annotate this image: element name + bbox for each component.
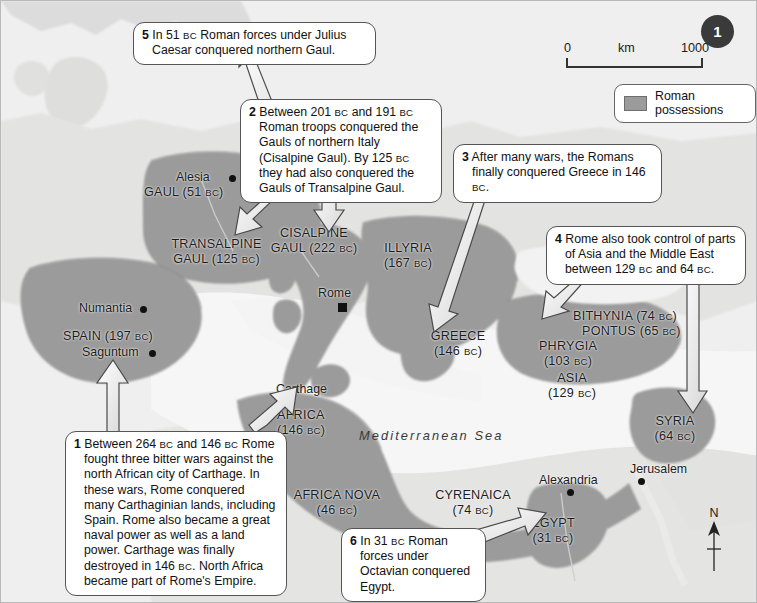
callout-2-text: Between 201 BC and 191 BC Roman troops c…: [259, 105, 418, 195]
region-label-greece-date: (146 BC): [413, 344, 503, 360]
legend: Roman possessions: [614, 84, 756, 123]
region-label-phrygia: PHRYGIA (103 BC): [522, 339, 614, 369]
region-label-spain: SPAIN (197 BC): [63, 329, 153, 345]
mediterranean-sea-label: Mediterranean Sea: [359, 428, 504, 443]
region-label-syria: SYRIA (64 BC): [635, 414, 715, 444]
city-dot-alexandria: [567, 489, 574, 496]
region-label-syria-date: (64 BC): [635, 429, 715, 445]
region-label-asia-name: ASIA: [530, 371, 614, 386]
region-label-syria-name: SYRIA: [635, 414, 715, 429]
city-dot-jerusalem: [638, 478, 645, 485]
region-label-asia: ASIA (129 BC): [530, 371, 614, 401]
callout-4-text: Rome also took control of parts of Asia …: [565, 232, 735, 276]
callout-4[interactable]: 4 Rome also took control of parts of Asi…: [546, 226, 746, 285]
callout-3[interactable]: 3 After many wars, the Romans finally co…: [453, 144, 662, 203]
region-label-cisalpine-line1: CISALPINE: [255, 226, 373, 241]
scale-min-label: 0: [564, 41, 571, 55]
city-square-rome: [338, 303, 347, 312]
legend-label-roman-possessions: Roman possessions: [655, 89, 745, 117]
region-label-pontus: PONTUS (65 BC): [582, 324, 681, 340]
region-label-cyrenaica: CYRENAICA (74 BC): [417, 488, 529, 518]
region-label-cisalpine-line2: GAUL (222 BC): [255, 241, 373, 257]
region-label-africa: AFRICA (146 BC): [277, 408, 325, 438]
city-label-numantia: Numantia: [79, 301, 132, 316]
city-dot-alesia: [229, 175, 236, 182]
callout-1-text: Between 264 BC and 146 BC Rome fought th…: [84, 437, 275, 588]
city-dot-numantia: [140, 306, 147, 313]
legend-swatch-roman-possessions: [624, 96, 647, 111]
callout-2[interactable]: 2 Between 201 BC and 191 BC Roman troops…: [240, 99, 442, 203]
region-label-illyria: ILLYRIA (167 BC): [364, 241, 452, 271]
city-label-alexandria: Alexandria: [539, 473, 598, 488]
callout-5[interactable]: 5 In 51 BC Roman forces under Julius Cae…: [133, 22, 376, 65]
city-label-alesia: Alesia: [176, 170, 210, 185]
region-label-egypt-name: EGYPT: [513, 516, 593, 531]
callout-6[interactable]: 6 In 31 BC Roman forces under Octavian c…: [341, 528, 486, 602]
page-number-badge: 1: [701, 15, 734, 48]
callout-6-text: In 31 BC Roman forces under Octavian con…: [360, 534, 470, 594]
region-label-cyrenaica-name: CYRENAICA: [417, 488, 529, 503]
city-dot-saguntum: [149, 350, 156, 357]
north-label: N: [699, 507, 729, 519]
scale-tick-end: [701, 58, 703, 67]
city-label-rome: Rome: [318, 286, 351, 301]
region-label-bithynia: BITHYNIA (74 BC): [573, 309, 677, 325]
region-label-greece: GREECE (146 BC): [413, 329, 503, 359]
region-label-egypt: EGYPT (31 BC): [513, 516, 593, 546]
region-label-africa-nova-date: (46 BC): [278, 503, 396, 519]
region-label-greece-name: GREECE: [413, 329, 503, 344]
callout-5-text: In 51 BC Roman forces under Julius Caesa…: [152, 28, 346, 57]
region-label-cisalpine-gaul: CISALPINE GAUL (222 BC): [255, 226, 373, 256]
region-label-gaul: GAUL (51 BC): [144, 185, 223, 201]
page-number-text: 1: [713, 23, 721, 40]
city-label-carthage: Carthage: [276, 382, 327, 397]
city-label-jerusalem: Jerusalem: [630, 462, 687, 477]
scale-tick-start: [566, 58, 568, 67]
city-dot-carthage: [288, 398, 295, 405]
callout-4-number: 4: [555, 232, 562, 246]
region-label-africa-name: AFRICA: [277, 408, 325, 423]
callout-1[interactable]: 1 Between 264 BC and 146 BC Rome fought …: [65, 431, 287, 596]
callout-1-number: 1: [74, 437, 81, 451]
region-label-illyria-date: (167 BC): [364, 256, 452, 272]
callout-2-number: 2: [249, 105, 256, 119]
region-label-phrygia-date: (103 BC): [522, 354, 614, 370]
city-label-saguntum: Saguntum: [82, 345, 138, 360]
region-label-illyria-name: ILLYRIA: [364, 241, 452, 256]
region-label-africa-nova-name: AFRICA NOVA: [278, 488, 396, 503]
callout-3-text: After many wars, the Romans finally conq…: [472, 150, 646, 194]
scale-unit-label: km: [618, 41, 635, 55]
callout-3-number: 3: [462, 150, 469, 164]
region-label-africa-nova: AFRICA NOVA (46 BC): [278, 488, 396, 518]
callout-5-number: 5: [142, 28, 149, 42]
north-arrow: N: [699, 507, 729, 579]
map-figure: Alesia GAUL (51 BC) TRANSALPINE GAUL (12…: [0, 0, 757, 603]
region-label-egypt-date: (31 BC): [513, 531, 593, 547]
scale-bar-line: [566, 66, 703, 68]
north-arrow-icon: [699, 519, 729, 575]
callout-6-number: 6: [350, 534, 357, 548]
region-label-asia-date: (129 BC): [530, 386, 614, 402]
region-label-phrygia-name: PHRYGIA: [522, 339, 614, 354]
scale-bar: 0 km 1000: [566, 41, 703, 67]
